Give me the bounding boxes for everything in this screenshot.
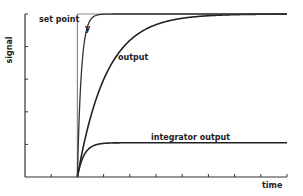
x-axis-label: time (262, 181, 283, 190)
output-label: output (118, 53, 148, 62)
set-point-label: set point (39, 15, 79, 24)
y-axis-label: signal (5, 36, 14, 63)
output-curve (77, 14, 287, 177)
step-response-chart: set point y output integrator output tim… (0, 0, 303, 196)
integrator-output-curve (77, 143, 287, 177)
y-curve (77, 14, 287, 177)
set-point-line (77, 14, 287, 177)
y-label: y (85, 24, 91, 33)
integrator-output-label: integrator output (151, 133, 230, 142)
